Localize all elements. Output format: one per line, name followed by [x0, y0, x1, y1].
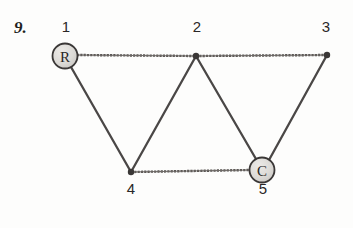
- edge-3-5: [269, 55, 327, 160]
- node-4[interactable]: [128, 169, 134, 175]
- graph-svg: R C: [0, 0, 353, 228]
- node-3[interactable]: [324, 52, 330, 58]
- node-label-5: 5: [251, 180, 275, 197]
- node-label-4: 4: [119, 180, 143, 197]
- edge-group: [71, 55, 327, 172]
- node-label-3: 3: [314, 18, 338, 35]
- node-label-1: 1: [54, 18, 78, 35]
- node-2[interactable]: [193, 53, 199, 59]
- node-2-dot: [193, 53, 199, 59]
- node-1[interactable]: R: [53, 44, 78, 69]
- node-label-2: 2: [185, 18, 209, 35]
- node-3-dot: [324, 52, 330, 58]
- edge-2-3-base: [196, 55, 327, 56]
- edge-1-4: [71, 67, 131, 172]
- node-5-inner-letter: C: [257, 163, 267, 179]
- node-5[interactable]: C: [250, 158, 275, 183]
- node-4-dot: [128, 169, 134, 175]
- figure-canvas: 9.: [0, 0, 353, 228]
- edge-2-5: [196, 56, 256, 159]
- node-1-inner-letter: R: [60, 49, 70, 65]
- edge-2-4: [131, 56, 196, 172]
